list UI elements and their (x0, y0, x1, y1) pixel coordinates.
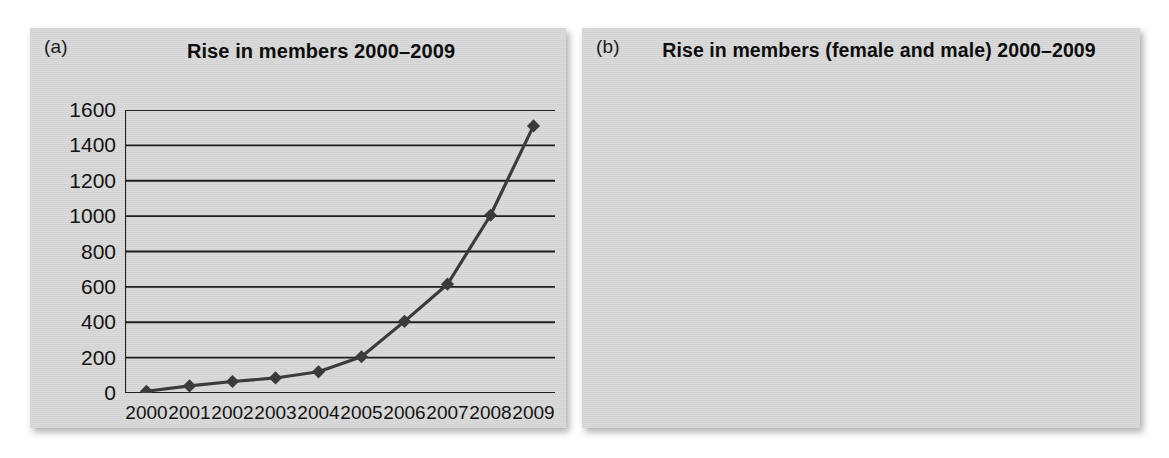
y-axis-tick-label: 800 (81, 240, 125, 264)
data-point-members (269, 371, 282, 384)
x-axis-tick-label: 2004 (297, 402, 339, 424)
y-axis-tick-label: 200 (81, 346, 125, 370)
chart-title-a: Rise in members 2000–2009 (30, 40, 566, 63)
chart-panel-a: (a) Rise in members 2000–2009 0200400600… (30, 28, 566, 428)
data-point-members (140, 385, 153, 393)
data-point-members (312, 365, 325, 378)
y-axis-tick-label: 1600 (69, 98, 125, 122)
x-axis-tick-label: 2000 (125, 402, 167, 424)
chart-title-b: Rise in members (female and male) 2000–2… (582, 39, 1140, 62)
line-chart-a (125, 110, 555, 393)
x-axis-tick-label: 2002 (211, 402, 253, 424)
plot-area-a: 0200400600800100012001400160020002001200… (125, 110, 555, 393)
y-axis-tick-label: 0 (104, 381, 125, 405)
y-axis-tick-label: 600 (81, 275, 125, 299)
y-axis-tick-label: 1200 (69, 169, 125, 193)
x-axis-tick-label: 2008 (469, 402, 511, 424)
data-point-members (226, 375, 239, 388)
y-axis-tick-label: 1000 (69, 204, 125, 228)
y-axis-tick-label: 400 (81, 310, 125, 334)
x-axis-tick-label: 2001 (168, 402, 210, 424)
x-axis-tick-label: 2003 (254, 402, 296, 424)
data-point-members (183, 379, 196, 392)
figure-canvas: (a) Rise in members 2000–2009 0200400600… (0, 0, 1169, 458)
x-axis-tick-label: 2007 (426, 402, 468, 424)
chart-panel-b: (b) Rise in members (female and male) 20… (582, 28, 1140, 428)
x-axis-tick-label: 2006 (383, 402, 425, 424)
data-point-members (527, 119, 540, 132)
x-axis-tick-label: 2005 (340, 402, 382, 424)
y-axis-tick-label: 1400 (69, 133, 125, 157)
x-axis-tick-label: 2009 (512, 402, 554, 424)
series-line-members (147, 126, 534, 391)
